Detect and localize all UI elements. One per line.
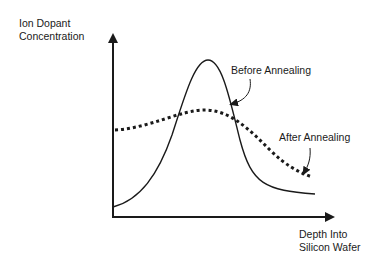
after-annealing-pointer: [304, 148, 310, 173]
y-axis-label: Ion Dopant Concentration: [19, 17, 84, 43]
y-axis-label-line-2: Concentration: [19, 30, 84, 43]
x-axis-label-line-1: Depth Into: [299, 228, 360, 241]
after-annealing-label: After Annealing: [279, 131, 350, 144]
x-axis-label-line-2: Silicon Wafer: [299, 241, 360, 254]
before-annealing-pointer: [232, 79, 250, 104]
x-axis-label: Depth Into Silicon Wafer: [299, 228, 360, 254]
y-axis-label-line-1: Ion Dopant: [19, 17, 84, 30]
before-annealing-label: Before Annealing: [231, 64, 311, 77]
